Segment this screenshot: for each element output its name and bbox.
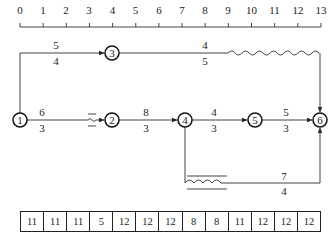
tick-label: 3 xyxy=(86,4,92,16)
tick-label: 10 xyxy=(246,4,257,16)
activity-4-6-resource: 7 xyxy=(281,170,287,182)
node-1-label: 1 xyxy=(13,113,27,127)
tick-label: 5 xyxy=(133,4,139,16)
node-5-label: 5 xyxy=(248,113,262,127)
activity-2-4-resource: 8 xyxy=(143,106,149,118)
activity-1-3-resource: 5 xyxy=(53,39,59,51)
node-2-label: 2 xyxy=(105,113,119,127)
resource-cell: 12 xyxy=(298,212,320,231)
resource-table: 11 11 11 5 12 12 12 8 8 11 12 12 12 xyxy=(20,211,321,232)
tick-label: 6 xyxy=(156,4,162,16)
activity-5-6-resource: 5 xyxy=(283,106,289,118)
free-float-4-6 xyxy=(185,180,221,183)
activity-4-5-duration: 3 xyxy=(211,122,217,134)
node-4-label: 4 xyxy=(178,113,192,127)
resource-cell: 12 xyxy=(159,212,182,231)
resource-cell: 5 xyxy=(90,212,113,231)
activity-1-2-duration: 3 xyxy=(39,122,45,134)
activity-1-3 xyxy=(20,53,104,114)
resource-cell: 11 xyxy=(44,212,67,231)
activity-4-6-duration: 4 xyxy=(281,185,287,197)
tick-label: 1 xyxy=(40,4,46,16)
tick-label: 13 xyxy=(316,4,327,16)
activity-4-5-resource: 4 xyxy=(211,106,217,118)
activity-1-3-duration: 4 xyxy=(53,55,59,67)
resource-cell: 11 xyxy=(21,212,44,231)
resource-cell: 11 xyxy=(67,212,90,231)
resource-cell: 8 xyxy=(206,212,229,231)
tick-label: 9 xyxy=(225,4,231,16)
activity-3-6-resource: 4 xyxy=(202,39,208,51)
tick-label: 4 xyxy=(110,4,116,16)
tick-label: 7 xyxy=(179,4,185,16)
timeline-axis xyxy=(20,23,321,27)
tick-label: 2 xyxy=(63,4,69,16)
resource-cell: 8 xyxy=(183,212,206,231)
tick-label: 0 xyxy=(17,4,23,16)
tick-label: 8 xyxy=(202,4,208,16)
resource-cell: 11 xyxy=(229,212,252,231)
tick-label: 11 xyxy=(269,4,280,16)
resource-cell: 12 xyxy=(252,212,275,231)
activity-2-4-duration: 3 xyxy=(143,122,149,134)
resource-cell: 12 xyxy=(136,212,159,231)
node-6-label: 6 xyxy=(313,113,327,127)
activity-1-2-resource: 6 xyxy=(39,106,45,118)
free-float-1-2 xyxy=(88,119,96,122)
node-3-label: 3 xyxy=(105,46,119,60)
resource-cell: 12 xyxy=(275,212,298,231)
activity-5-6-duration: 3 xyxy=(283,122,289,134)
activity-3-6-duration: 5 xyxy=(202,55,208,67)
free-float-3-6 xyxy=(228,51,319,55)
tick-label: 12 xyxy=(293,4,304,16)
resource-cell: 12 xyxy=(113,212,136,231)
